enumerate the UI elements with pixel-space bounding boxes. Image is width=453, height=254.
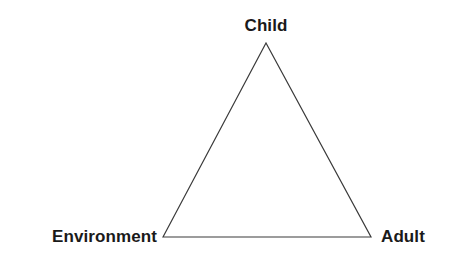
node-label-adult: Adult xyxy=(381,228,425,245)
triangle-outline xyxy=(163,43,371,237)
triangle-diagram xyxy=(0,0,453,254)
node-label-child: Child xyxy=(245,17,288,34)
node-label-environment: Environment xyxy=(52,228,157,245)
diagram-canvas: Child Environment Adult xyxy=(0,0,453,254)
